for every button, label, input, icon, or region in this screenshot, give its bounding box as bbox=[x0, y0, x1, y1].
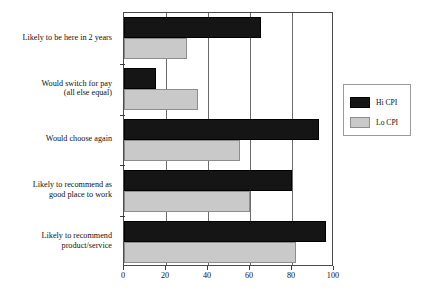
x-axis-tick-label: 60 bbox=[245, 271, 253, 281]
plot-inner bbox=[124, 13, 332, 265]
bar-hi-cpi bbox=[124, 221, 326, 242]
x-axis: 020406080100 bbox=[123, 266, 333, 282]
x-axis-tick bbox=[207, 266, 208, 270]
category-label: Likely to recommend as good place to wor… bbox=[0, 180, 112, 199]
x-axis-tick-label: 20 bbox=[161, 271, 169, 281]
x-axis-tick-label: 0 bbox=[121, 271, 125, 281]
x-axis-tick bbox=[291, 266, 292, 270]
legend-swatch-lo-cpi bbox=[350, 117, 370, 128]
bar-lo-cpi bbox=[124, 140, 240, 161]
legend-swatch-hi-cpi bbox=[350, 97, 370, 108]
bar-lo-cpi bbox=[124, 242, 296, 263]
legend-item: Lo CPI bbox=[350, 116, 398, 129]
y-axis-tick bbox=[120, 165, 125, 166]
bar-hi-cpi bbox=[124, 119, 319, 140]
bar-hi-cpi bbox=[124, 17, 261, 38]
y-axis-tick bbox=[120, 216, 125, 217]
legend-item: Hi CPI bbox=[350, 96, 397, 109]
category-label: Would choose again bbox=[0, 134, 112, 144]
bar-lo-cpi bbox=[124, 191, 250, 212]
bar-lo-cpi bbox=[124, 38, 187, 59]
category-label: Likely to recommend product/service bbox=[0, 231, 112, 250]
bar-hi-cpi bbox=[124, 68, 156, 89]
x-axis-tick-label: 40 bbox=[203, 271, 211, 281]
y-axis-tick bbox=[120, 115, 125, 116]
y-axis-tick bbox=[120, 64, 125, 65]
category-label: Would switch for pay (all else equal) bbox=[0, 79, 112, 98]
x-axis-tick bbox=[333, 266, 334, 270]
category-label: Likely to be here in 2 years bbox=[0, 33, 112, 43]
x-axis-tick-label: 80 bbox=[287, 271, 295, 281]
x-axis-tick bbox=[123, 266, 124, 270]
legend-label: Lo CPI bbox=[376, 118, 398, 127]
bar-hi-cpi bbox=[124, 170, 292, 191]
x-axis-tick bbox=[249, 266, 250, 270]
category-axis-labels: Likely to be here in 2 yearsWould switch… bbox=[0, 12, 118, 266]
legend: Hi CPILo CPI bbox=[343, 84, 411, 136]
figure: Likely to be here in 2 yearsWould switch… bbox=[0, 0, 421, 298]
x-axis-tick bbox=[165, 266, 166, 270]
x-axis-tick-label: 100 bbox=[327, 271, 339, 281]
bar-lo-cpi bbox=[124, 89, 198, 110]
plot-area bbox=[123, 12, 333, 266]
legend-label: Hi CPI bbox=[376, 98, 397, 107]
